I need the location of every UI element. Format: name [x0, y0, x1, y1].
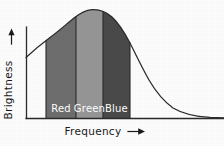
brightness-frequency-chart: Red Green Blue Brightness Frequency	[0, 0, 224, 146]
band-group	[46, 0, 130, 119]
y-axis-label: Brightness	[2, 61, 14, 120]
chart-canvas: Red Green Blue Brightness Frequency	[0, 0, 224, 146]
x-axis-label: Frequency	[65, 125, 122, 137]
band-label-blue: Blue	[105, 103, 128, 114]
band-green	[76, 0, 103, 119]
band-red	[46, 0, 76, 119]
x-axis-arrow-icon	[128, 128, 145, 134]
band-label-green: Green	[74, 103, 105, 114]
y-axis-arrow-icon	[8, 29, 14, 45]
band-blue	[103, 0, 130, 119]
band-label-red: Red	[51, 103, 71, 114]
